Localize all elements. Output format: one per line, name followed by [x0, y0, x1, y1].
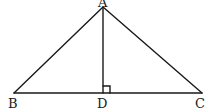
segment-ac	[103, 7, 202, 93]
label-b: B	[8, 96, 18, 111]
segment-ab	[14, 7, 103, 93]
label-a: A	[97, 0, 108, 10]
label-c: C	[195, 96, 205, 111]
label-d: D	[97, 96, 107, 111]
triangle-diagram: A B D C	[0, 0, 214, 112]
right-angle-marker-icon	[103, 86, 110, 93]
